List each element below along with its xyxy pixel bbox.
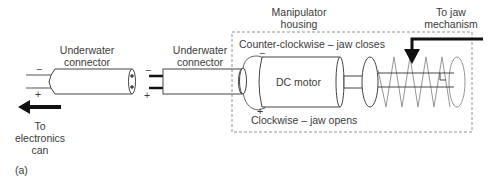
right-connector-pins <box>149 76 163 88</box>
panel-label: (a) <box>15 164 28 176</box>
right-connector-title: Underwater connector <box>168 44 232 68</box>
right-connector-plus: + <box>144 89 150 101</box>
jaw-label-line1: To jaw <box>416 6 486 18</box>
housing-title-line1: Manipulator <box>262 6 336 18</box>
coupling-disk <box>362 57 378 107</box>
right-connector-minus: − <box>145 64 151 76</box>
jaw-label-line2: mechanism <box>416 18 486 30</box>
left-wires <box>26 75 52 88</box>
connector-end-ellipse <box>240 68 247 94</box>
housing-title: Manipulator housing <box>262 6 336 30</box>
housing-title-line2: housing <box>262 18 336 30</box>
motor-minus: − <box>259 47 265 59</box>
left-underwater-connector <box>49 69 136 94</box>
to-jaw-arrow <box>404 39 483 64</box>
electronics-label-line2: electronics <box>12 132 68 144</box>
right-connector-title-line1: Underwater <box>168 44 232 56</box>
left-connector-title-line2: connector <box>55 56 119 68</box>
cw-label: Clockwise – jaw opens <box>251 114 357 126</box>
left-connector-title-line1: Underwater <box>55 44 119 56</box>
to-electronics-arrow <box>18 100 61 114</box>
right-connector-title-line2: connector <box>168 56 232 68</box>
jaw-mechanism-label: To jaw mechanism <box>416 6 486 30</box>
spring-end-disk <box>449 57 465 107</box>
left-connector-plus: + <box>35 88 41 100</box>
left-connector-minus: − <box>36 63 42 75</box>
electronics-label: To electronics can <box>12 120 68 156</box>
left-connector-title: Underwater connector <box>55 44 119 68</box>
dc-motor-label: DC motor <box>276 76 321 88</box>
right-underwater-connector <box>163 69 246 94</box>
spring <box>378 57 450 107</box>
electronics-label-line3: can <box>12 144 68 156</box>
electronics-label-line1: To <box>12 120 68 132</box>
